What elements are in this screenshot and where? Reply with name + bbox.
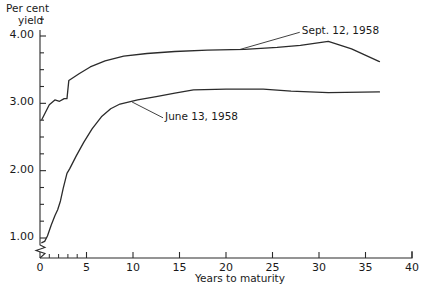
x-tick-label-30: 30	[306, 262, 332, 275]
x-tick-label-20: 20	[213, 262, 239, 275]
series-label-sept-12-1958: Sept. 12, 1958	[302, 24, 379, 36]
series-label-june-13-1958: June 13, 1958	[165, 110, 238, 122]
x-tick-label-10: 10	[120, 262, 146, 275]
y-axis-title: Per centyield	[6, 2, 49, 26]
y-tick-label-4.00: 4.00	[0, 29, 34, 42]
x-tick-label-15: 15	[167, 262, 193, 275]
y-tick-label-1.00: 1.00	[0, 231, 34, 244]
data-series-group	[42, 41, 380, 242]
x-axis-ticks	[40, 252, 412, 258]
annotation-leader-lines	[132, 32, 300, 118]
leader-line-june-13-1958	[132, 102, 163, 118]
y-axis-title-line1: Per cent	[6, 2, 49, 14]
yield-curve-figure: Per centyield Years to maturity 1.002.00…	[0, 0, 435, 289]
y-tick-label-3.00: 3.00	[0, 96, 34, 109]
y-axis-title-line2: yield	[6, 14, 49, 26]
x-tick-label-0: 0	[27, 262, 53, 275]
axes-group	[36, 19, 412, 258]
series-line-sept-12-1958	[42, 41, 380, 119]
x-tick-label-40: 40	[399, 262, 425, 275]
y-tick-label-2.00: 2.00	[0, 164, 34, 177]
x-tick-label-5: 5	[74, 262, 100, 275]
y-axis-ticks	[40, 19, 46, 238]
y-axis-line	[36, 30, 45, 258]
x-tick-label-35: 35	[353, 262, 379, 275]
x-tick-label-25: 25	[260, 262, 286, 275]
plot-area	[0, 0, 435, 289]
